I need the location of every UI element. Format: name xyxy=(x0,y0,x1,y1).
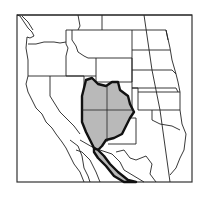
range-map xyxy=(0,0,200,200)
